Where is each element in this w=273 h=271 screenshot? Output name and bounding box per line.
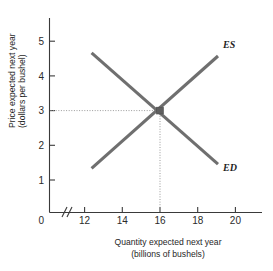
x-tick-label-18: 18 bbox=[192, 215, 204, 226]
x-axis-title-line1: Quantity expected next year bbox=[114, 237, 221, 247]
equilibrium-point-marker bbox=[157, 107, 164, 114]
x-tick-label-16: 16 bbox=[154, 215, 166, 226]
y-tick-label-4: 4 bbox=[38, 71, 44, 82]
y-tick-label-3: 3 bbox=[38, 105, 44, 116]
x-tick-label-12: 12 bbox=[79, 215, 91, 226]
y-tick-label-5: 5 bbox=[38, 36, 44, 47]
x-tick-label-20: 20 bbox=[230, 215, 242, 226]
ed-curve-label: ED bbox=[222, 162, 237, 173]
ed-curve bbox=[92, 53, 218, 164]
es-curve bbox=[92, 56, 218, 168]
y-tick-label-2: 2 bbox=[38, 140, 44, 151]
es-curve-label: ES bbox=[222, 39, 236, 50]
chart-canvas: 5 4 3 2 1 0 12 14 16 18 20 ES ED bbox=[0, 0, 273, 271]
y-tick-label-1: 1 bbox=[38, 175, 44, 186]
x-axis-title-line2: (billions of bushels) bbox=[131, 249, 205, 259]
y-axis-title-line1: Price expected next year bbox=[7, 33, 17, 128]
x-tick-label-14: 14 bbox=[117, 215, 129, 226]
supply-demand-chart: 5 4 3 2 1 0 12 14 16 18 20 ES ED bbox=[0, 0, 273, 271]
y-axis-title-line2: (dollars per bushel) bbox=[17, 54, 27, 128]
origin-label: 0 bbox=[38, 215, 44, 226]
